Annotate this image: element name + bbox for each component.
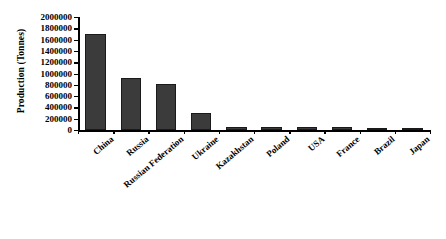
y-axis-tick-label: 1400000 <box>41 46 73 55</box>
y-axis-tick-label: 600000 <box>45 92 72 101</box>
y-axis-tick-label: 200000 <box>45 114 72 123</box>
bar <box>156 84 176 130</box>
y-axis-tick-label: 1000000 <box>41 69 73 78</box>
y-axis-title: Production (Tonnes) <box>16 6 26 136</box>
y-axis-tick <box>74 51 78 52</box>
bar <box>402 128 422 130</box>
plot-area: 0200000400000600000800000100000012000001… <box>78 17 430 130</box>
bar <box>191 113 211 130</box>
x-axis-category-label: Brazil <box>372 134 396 157</box>
x-axis-category-label: France <box>334 134 361 159</box>
bar <box>367 128 387 130</box>
y-axis-tick <box>74 40 78 41</box>
y-axis-tick <box>74 17 78 18</box>
y-axis-tick-label: 800000 <box>45 80 72 89</box>
y-axis-line <box>78 17 80 130</box>
bar <box>85 34 105 130</box>
bar <box>226 127 246 130</box>
y-axis-tick <box>74 85 78 86</box>
x-axis-category-label: Japan <box>407 134 431 157</box>
x-axis-label-group: ChinaRussiaRussian FederationUkraineKaza… <box>78 134 430 234</box>
y-axis-tick-label: 1600000 <box>41 35 73 44</box>
bar <box>261 127 281 130</box>
y-axis-tick-label: 1200000 <box>41 58 73 67</box>
x-axis-category-label: China <box>91 134 115 157</box>
y-axis-tick-label: 400000 <box>45 103 72 112</box>
y-axis-tick-label: 1800000 <box>41 24 73 33</box>
x-axis-category-label: Russia <box>124 134 150 158</box>
y-axis-tick <box>74 28 78 29</box>
y-axis-tick <box>74 107 78 108</box>
bar-chart: Production (Tonnes) 02000004000006000008… <box>0 0 446 239</box>
bar <box>332 127 352 130</box>
x-axis-category-label: Russian Federation <box>122 134 186 190</box>
y-axis-tick <box>74 62 78 63</box>
x-axis-category-label: Kazakhstan <box>214 134 256 171</box>
bar <box>121 78 141 130</box>
y-axis-tick <box>74 96 78 97</box>
bar <box>297 127 317 130</box>
x-axis-tick <box>430 130 431 134</box>
y-axis-tick <box>74 74 78 75</box>
y-axis-tick <box>74 119 78 120</box>
x-axis-category-label: Poland <box>264 134 291 159</box>
y-axis-tick-label: 0 <box>68 126 73 135</box>
x-axis-category-label: USA <box>306 134 326 153</box>
x-axis-category-label: Ukraine <box>190 134 221 162</box>
y-axis-tick-label: 2000000 <box>41 13 73 22</box>
